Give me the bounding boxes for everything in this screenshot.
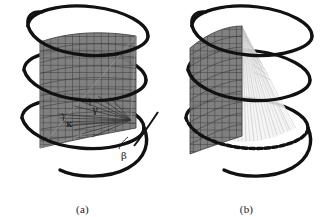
label-beta: β xyxy=(121,150,127,161)
panel-b xyxy=(164,0,329,200)
label-gamma: γ xyxy=(92,104,98,115)
mesh-surface-b xyxy=(186,26,244,154)
panel-a: κ γ β xyxy=(0,0,165,200)
mesh-surface-a xyxy=(36,33,140,148)
figure-container: κ γ β xyxy=(0,0,329,217)
label-kappa: κ xyxy=(66,118,73,129)
panel-a-graphic: κ γ β xyxy=(0,0,165,200)
caption-a: (a) xyxy=(0,203,165,215)
caption-b: (b) xyxy=(164,203,329,215)
panel-b-graphic xyxy=(164,0,329,200)
